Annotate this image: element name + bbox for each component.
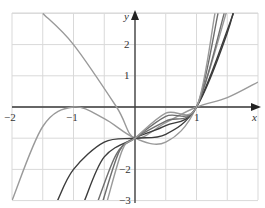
y-tick-label: −3 <box>119 194 131 206</box>
y-axis-arrow-icon <box>131 10 139 20</box>
x-axis-label: x <box>251 111 257 123</box>
y-tick-label: 1 <box>124 69 130 81</box>
x-axis-arrow-icon <box>251 103 261 111</box>
x-tick-label: −2 <box>4 111 16 123</box>
chart-canvas: x y −2 −1 1 2 1 −2 −3 <box>0 0 265 208</box>
y-tick-label: −2 <box>119 163 131 175</box>
y-axis-label: y <box>123 10 129 22</box>
y-tick-label: 2 <box>124 38 130 50</box>
x-tick-label: −1 <box>66 111 78 123</box>
x-tick-label: 1 <box>194 111 200 123</box>
